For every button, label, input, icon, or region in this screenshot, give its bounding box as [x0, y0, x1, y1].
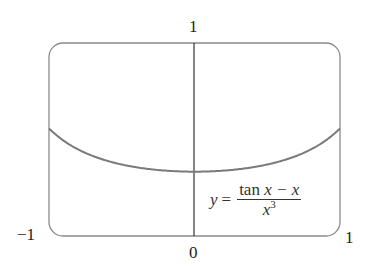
formula-lhs: y: [210, 190, 218, 210]
x-tick-center-label: 0: [189, 244, 198, 261]
y-tick-top-label: 1: [189, 18, 198, 35]
formula-equals: =: [222, 190, 232, 210]
formula-numerator-rest: x − x: [260, 180, 299, 199]
x-tick-left-label: −1: [17, 226, 35, 243]
chart-plot: [0, 0, 378, 278]
formula-tan: tan: [239, 180, 260, 199]
formula-denominator: x3: [263, 200, 276, 218]
x-tick-right-label: 1: [345, 229, 354, 246]
formula-numerator: tan x − x: [237, 181, 301, 200]
function-formula-label: y = tan x − x x3: [210, 181, 301, 218]
formula-fraction: tan x − x x3: [237, 181, 301, 218]
formula-exponent: 3: [270, 198, 276, 210]
